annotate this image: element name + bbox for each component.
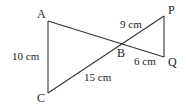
- vertex-label-b: B: [117, 46, 125, 60]
- segment-aq: [48, 21, 164, 57]
- triangle-diagram: A C B P Q 10 cm 9 cm 6 cm 15 cm: [0, 0, 186, 107]
- measurement-bp: 9 cm: [120, 18, 142, 30]
- measurement-ac: 10 cm: [12, 50, 40, 62]
- measurement-bq: 6 cm: [134, 55, 156, 67]
- vertex-label-p: P: [168, 3, 175, 17]
- vertex-label-a: A: [37, 7, 46, 21]
- vertex-label-q: Q: [168, 55, 177, 69]
- measurement-bc: 15 cm: [84, 71, 112, 83]
- vertex-label-c: C: [37, 91, 45, 105]
